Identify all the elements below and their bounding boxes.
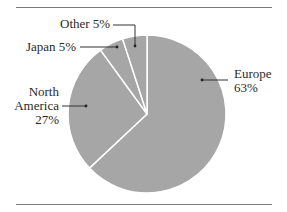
- label-north-america-line1: North: [0, 85, 59, 99]
- pie-slices: [68, 35, 226, 193]
- leader-dot-europe: [201, 79, 204, 82]
- label-north-america: North America 27%: [0, 85, 59, 127]
- label-north-america-value: 27%: [0, 113, 59, 127]
- label-europe-value: 63%: [234, 81, 272, 95]
- leader-dot-other: [134, 45, 137, 48]
- leader-dot-north-america: [85, 105, 88, 108]
- leader-dot-japan: [116, 46, 119, 49]
- label-japan: Japan 5%: [26, 40, 76, 54]
- label-north-america-line2: America: [0, 99, 59, 113]
- label-europe: Europe 63%: [234, 67, 272, 95]
- label-europe-name: Europe: [234, 67, 272, 81]
- label-other: Other 5%: [60, 17, 110, 31]
